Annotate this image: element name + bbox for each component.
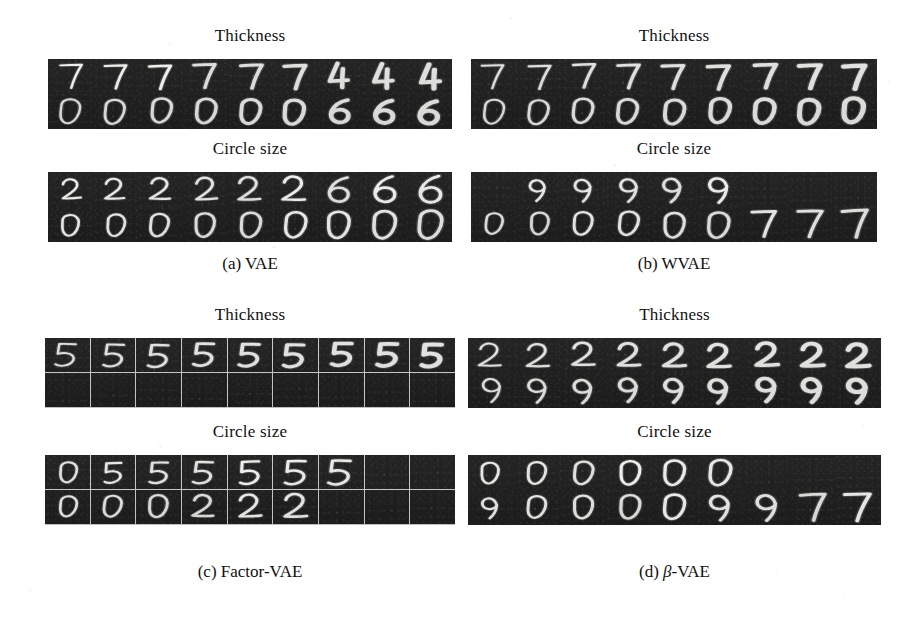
traversal-row [45,338,455,373]
traversal-cell [272,207,317,242]
traversal-cell [560,455,606,490]
traversal-cell [138,94,183,129]
traversal-cell [606,59,651,94]
traversal-cell [410,490,455,524]
panel-wvae: Thickness Circle size (b) WVAE [471,26,877,288]
traversal-row [471,207,877,242]
strip-label-thickness: Thickness [48,26,452,46]
traversal-cell [319,373,365,407]
strip-label-thickness: Thickness [471,26,877,46]
traversal-cell [48,59,93,94]
traversal-strip-thickness [468,338,881,408]
traversal-cell [410,455,455,489]
traversal-cell [561,59,606,94]
traversal-cell [407,207,452,242]
traversal-strip-circle-size [45,455,455,525]
traversal-cell [228,207,273,242]
page-speck [79,598,81,600]
traversal-strip-thickness [48,59,452,129]
traversal-cell [651,59,696,94]
traversal-cell [697,338,743,373]
traversal-cell [93,172,138,207]
page-speck [888,80,890,82]
panel-caption-a: (a) VAE [48,254,452,274]
traversal-cell [742,207,787,242]
strip-label-circle-size: Circle size [471,139,877,159]
traversal-cell [561,207,606,242]
traversal-cell [787,172,832,207]
traversal-cell [138,59,183,94]
traversal-cell [48,207,93,242]
traversal-cell [835,338,881,373]
traversal-cell [471,59,516,94]
strip-label-thickness: Thickness [45,305,455,325]
traversal-cell [514,490,560,525]
traversal-cell [468,338,514,373]
traversal-cell [514,338,560,373]
strip-label-circle-size: Circle size [45,422,455,442]
traversal-cell [471,207,516,242]
page-speck [901,562,903,564]
traversal-cell [45,455,91,489]
traversal-cell [93,94,138,129]
traversal-cell [138,172,183,207]
traversal-cell [136,338,182,372]
traversal-cell [273,373,319,407]
traversal-cell [365,455,411,489]
traversal-cell [365,338,411,372]
traversal-cell [362,207,407,242]
panel-vae: Thickness Circle size (a) VAE [48,26,452,288]
traversal-cell [743,338,789,373]
traversal-cell [319,455,365,489]
traversal-cell [697,455,743,490]
traversal-cell [410,338,455,372]
panel-caption-d: (d) β-VAE [468,562,881,582]
traversal-cell [516,59,561,94]
traversal-cell [514,455,560,490]
panel-caption-b: (b) WVAE [471,254,877,274]
traversal-cell [606,490,652,525]
traversal-cell [183,172,228,207]
traversal-cell [697,490,743,525]
traversal-cell [183,94,228,129]
traversal-row [48,94,452,129]
traversal-cell [91,338,137,372]
traversal-cell [317,94,362,129]
traversal-row [468,455,881,490]
traversal-cell [743,490,789,525]
traversal-row [48,207,452,242]
traversal-cell [697,207,742,242]
traversal-strip-circle-size [48,172,452,242]
traversal-cell [468,490,514,525]
traversal-strip-circle-size [471,172,877,242]
traversal-row [471,94,877,129]
traversal-cell [652,373,698,408]
traversal-cell [91,490,137,524]
traversal-cell [787,59,832,94]
traversal-cell [789,373,835,408]
traversal-strip-thickness [471,59,877,129]
strip-label-circle-size: Circle size [468,422,881,442]
traversal-cell [832,207,877,242]
traversal-cell [272,172,317,207]
traversal-cell [743,455,789,490]
traversal-cell [45,338,91,372]
traversal-cell [407,59,452,94]
traversal-cell [789,338,835,373]
traversal-cell [272,94,317,129]
traversal-cell [606,207,651,242]
traversal-cell [560,338,606,373]
traversal-cell [273,338,319,372]
traversal-cell [228,94,273,129]
traversal-row [45,490,455,525]
traversal-cell [407,172,452,207]
traversal-cell [835,373,881,408]
traversal-cell [273,490,319,524]
traversal-cell [410,373,455,407]
traversal-cell [742,172,787,207]
page-speck [29,589,32,592]
traversal-strip-thickness [45,338,455,408]
strip-label-circle-size: Circle size [48,139,452,159]
traversal-cell [91,373,137,407]
traversal-cell [407,94,452,129]
